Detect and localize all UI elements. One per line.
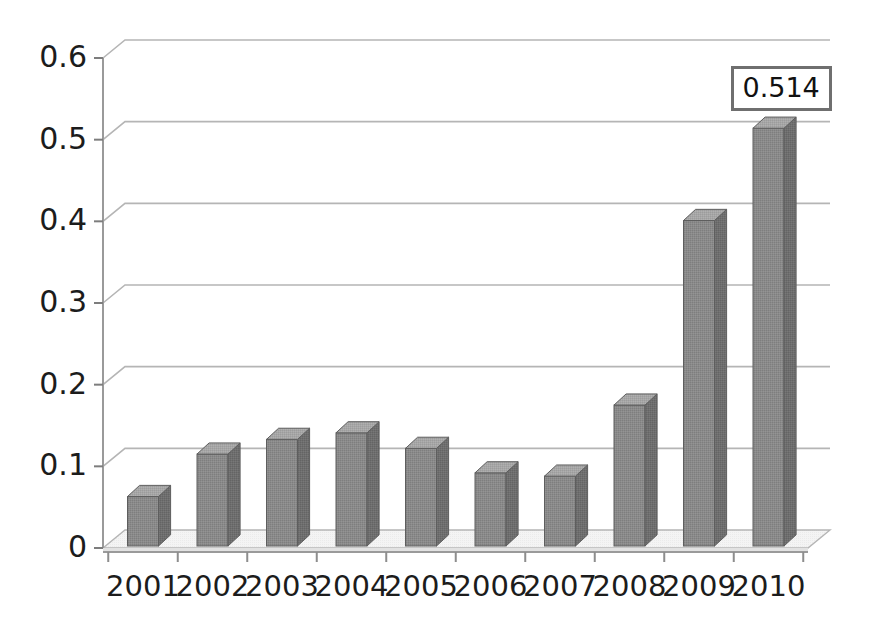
data-label-callout: 0.514: [731, 66, 832, 111]
bar-front-face: [684, 221, 715, 546]
bar-column: [197, 443, 240, 546]
value-axis-tick-label: 0.1: [39, 450, 87, 480]
value-axis-tick-label: 0.3: [39, 287, 87, 317]
bar-front-face: [267, 439, 298, 546]
bar-front-face: [545, 476, 576, 546]
bar-column: [406, 437, 449, 546]
value-axis-tick-label: 0: [68, 532, 87, 562]
value-axis-tick-label: 0.6: [39, 42, 87, 72]
bar-column: [267, 428, 310, 546]
bar-column: [128, 485, 171, 546]
bar-column: [684, 209, 727, 546]
bar-column: [753, 117, 796, 546]
bar-front-face: [614, 405, 645, 546]
chart-container: 00.10.20.30.40.50.6 20012002200320042005…: [0, 0, 876, 626]
bar-column: [475, 462, 518, 546]
bar-front-face: [197, 454, 228, 546]
category-axis-tick-label: 2010: [725, 572, 813, 601]
bar-side-face: [506, 462, 518, 546]
bar-front-face: [475, 473, 506, 546]
bar-side-face: [298, 428, 310, 546]
bar-side-face: [784, 117, 796, 546]
bar-column: [336, 422, 379, 546]
value-axis-tick-label: 0.4: [39, 205, 87, 235]
value-axis-tick-label: 0.5: [39, 124, 87, 154]
bar-side-face: [228, 443, 240, 546]
value-axis-tick-label: 0.2: [39, 369, 87, 399]
bar-column: [614, 394, 657, 546]
bar-front-face: [753, 128, 784, 546]
bar-side-face: [715, 209, 727, 546]
bar-front-face: [128, 497, 159, 546]
bar-front-face: [406, 448, 437, 546]
bar-front-face: [336, 433, 367, 546]
bar-side-face: [576, 465, 588, 546]
bar-side-face: [645, 394, 657, 546]
bar-column: [545, 465, 588, 546]
bar-side-face: [437, 437, 449, 546]
bar-side-face: [367, 422, 379, 546]
